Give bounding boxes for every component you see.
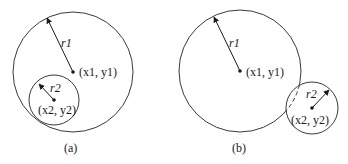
center-dot-1-a xyxy=(71,70,75,74)
center-label-1-a: (x1, y1) xyxy=(79,65,117,79)
caption-a: (a) xyxy=(64,141,77,155)
center-dot-1-b xyxy=(238,69,242,73)
caption-b: (b) xyxy=(232,141,246,155)
center-label-1-b: (x1, y1) xyxy=(246,65,284,79)
r2-label-a: r2 xyxy=(50,81,61,95)
center-dot-2-b xyxy=(310,106,314,110)
r2-label-b: r2 xyxy=(306,87,317,101)
center-label-2-a: (x2, y2) xyxy=(38,103,76,117)
center-dot-2-a xyxy=(52,98,56,102)
panel-b: r1 (x1, y1) r2 (x2, y2) (b) xyxy=(179,10,338,155)
r1-label-a: r1 xyxy=(61,36,72,50)
circle-relations-diagram: r1 (x1, y1) r2 (x2, y2) (a) r1 (x1, y1) … xyxy=(0,0,348,164)
panel-a: r1 (x1, y1) r2 (x2, y2) (a) xyxy=(13,12,133,155)
r1-label-b: r1 xyxy=(229,36,240,50)
center-label-2-b: (x2, y2) xyxy=(291,113,329,127)
